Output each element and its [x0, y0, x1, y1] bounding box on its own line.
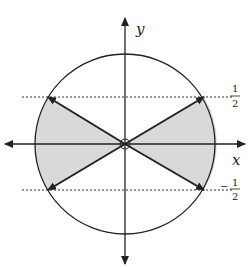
svg-text:2: 2: [232, 191, 238, 202]
x-axis-label: x: [232, 151, 241, 169]
svg-text:−: −: [220, 181, 228, 192]
svg-text:2: 2: [232, 98, 238, 109]
unit-circle-diagram: y x 1 2 − 1 2: [0, 0, 249, 267]
label-half: 1 2: [230, 83, 240, 109]
svg-text:1: 1: [232, 177, 238, 188]
svg-text:1: 1: [232, 83, 238, 94]
y-axis-label: y: [135, 20, 145, 38]
